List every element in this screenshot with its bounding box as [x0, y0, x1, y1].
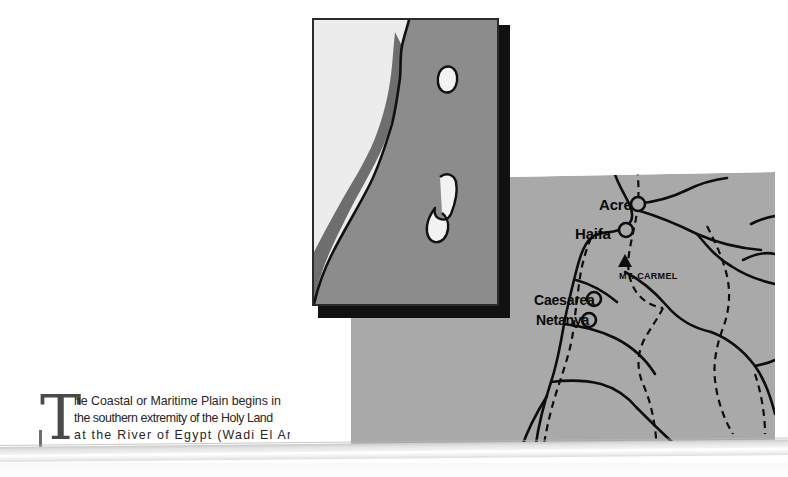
- map-label-acre: Acre: [599, 197, 632, 212]
- map-label-caesarea: Caesarea: [534, 293, 595, 307]
- margin-rule: [39, 430, 42, 452]
- map-label-netanya: Netanya: [536, 313, 589, 327]
- body-text-line-2: the southern extremity of the Holy Land: [74, 411, 273, 425]
- body-text-block: T he Coastal or Maritime Plain begins in…: [40, 390, 290, 460]
- book-page: Acre Haifa Caesarea Netanya MT. CARMEL: [0, 0, 788, 477]
- map-label-mt-carmel: MT. CARMEL: [619, 272, 678, 281]
- city-marker-acre: [631, 197, 645, 211]
- city-marker-haifa: [619, 223, 633, 237]
- body-text-line-1: he Coastal or Maritime Plain begins in: [74, 394, 281, 408]
- inset-map-frame: [312, 18, 499, 306]
- inset-map-graphic: [314, 20, 497, 304]
- inset-sea-of-galilee: [438, 66, 457, 92]
- body-text-line-3: at the River of Egypt (Wadi El Arish): [74, 428, 290, 442]
- page-edge-band-lower: [0, 463, 788, 477]
- map-label-haifa: Haifa: [575, 226, 611, 241]
- inset-map-container: [312, 18, 507, 317]
